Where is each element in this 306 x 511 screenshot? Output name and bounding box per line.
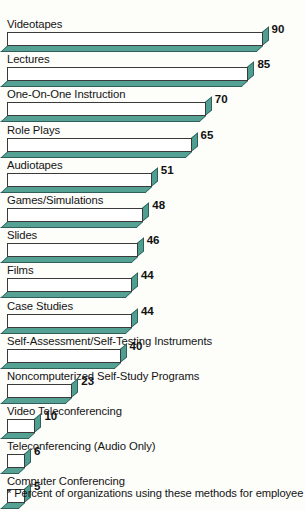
bar-category-label: Self-Assessment/Self-Testing Instruments (7, 335, 212, 348)
bar-top-face (7, 138, 192, 152)
bar-value-label: 48 (152, 199, 165, 211)
bar-end-cap (262, 26, 269, 46)
bar-3d (7, 384, 79, 405)
bar-row: Audiotapes51 (0, 159, 306, 194)
bar-3d (7, 314, 139, 335)
bar-category-label: Video Teleconferencing (7, 405, 122, 418)
bar-3d (7, 243, 145, 264)
bar-3d (7, 67, 255, 88)
bar-value-label: 46 (147, 234, 160, 246)
bar-value-label: 65 (201, 129, 214, 141)
bar-end-cap (131, 272, 138, 292)
bar-3d (7, 349, 128, 370)
bar-bottom-face (0, 503, 25, 509)
bar-value-label: 44 (141, 269, 154, 281)
bar-category-label: Noncomputerized Self-Study Programs (7, 370, 199, 383)
bar-top-face (7, 102, 206, 116)
bar-row: One-On-One Instruction70 (0, 88, 306, 123)
bar-3d (7, 173, 159, 194)
bar-3d (7, 419, 42, 440)
bar-row: Video Teleconferencing10 (0, 405, 306, 440)
bar-top-face (7, 208, 143, 222)
bar-bottom-face (0, 398, 72, 404)
bar-row: Teleconferencing (Audio Only)6 (0, 440, 306, 475)
chart-footnote: * Percent of organizations using these m… (7, 486, 303, 500)
bar-category-label: One-On-One Instruction (7, 88, 125, 101)
bar-value-label: 51 (161, 164, 174, 176)
bar-bottom-face (0, 292, 132, 298)
bar-bottom-face (0, 46, 262, 52)
bar-category-label: Audiotapes (7, 159, 63, 172)
bar-bottom-face (0, 433, 35, 439)
bar-top-face (7, 173, 152, 187)
bar-top-face (7, 243, 138, 257)
bar-3d (7, 32, 270, 53)
bar-category-label: Games/Simulations (7, 194, 103, 207)
bar-value-label: 10 (44, 410, 57, 422)
bar-end-cap (205, 97, 212, 117)
bar-bottom-face (0, 116, 205, 122)
bar-bottom-face (0, 363, 120, 369)
bar-category-label: Films (7, 264, 33, 277)
bar-top-face (7, 67, 248, 81)
bar-end-cap (151, 167, 158, 187)
bar-bottom-face (0, 152, 191, 158)
bar-value-label: 6 (34, 445, 40, 457)
bar-3d (7, 138, 199, 159)
bar-value-label: 44 (141, 305, 154, 317)
bar-category-label: Case Studies (7, 300, 73, 313)
bar-top-face (7, 314, 132, 328)
bar-end-cap (34, 413, 41, 433)
bar-bottom-face (0, 328, 132, 334)
bar-value-label: 85 (257, 58, 270, 70)
bar-bottom-face (0, 468, 25, 474)
bar-category-label: Videotapes (7, 18, 62, 31)
bar-row: Films44 (0, 264, 306, 299)
bar-row: Videotapes90 (0, 18, 306, 53)
bar-category-label: Lectures (7, 53, 50, 66)
bar-3d (7, 208, 150, 229)
bar-end-cap (137, 237, 144, 257)
bar-row: Self-Assessment/Self-Testing Instruments… (0, 335, 306, 370)
bar-value-label: 23 (81, 375, 94, 387)
bar-category-label: Slides (7, 229, 37, 242)
bar-3d (7, 102, 213, 123)
bar-top-face (7, 454, 25, 468)
bar-3d (7, 454, 32, 475)
bar-end-cap (191, 132, 198, 152)
bar-end-cap (131, 308, 138, 328)
bar-row: Role Plays65 (0, 124, 306, 159)
bar-category-label: Role Plays (7, 124, 60, 137)
bar-bottom-face (0, 257, 137, 263)
bar-value-label: 40 (130, 340, 143, 352)
bar-row: Lectures85 (0, 53, 306, 88)
bar-top-face (7, 349, 121, 363)
bar-row: Slides46 (0, 229, 306, 264)
bar-value-label: 70 (215, 93, 228, 105)
bar-end-cap (142, 202, 149, 222)
bar-top-face (7, 384, 72, 398)
bar-3d (7, 278, 139, 299)
bar-bottom-face (0, 81, 248, 87)
bar-bottom-face (0, 187, 151, 193)
bar-end-cap (24, 448, 31, 468)
bar-end-cap (247, 61, 254, 81)
bar-top-face (7, 419, 35, 433)
bar-row: Case Studies44 (0, 300, 306, 335)
bar-value-label: 90 (272, 23, 285, 35)
bar-top-face (7, 278, 132, 292)
bar-bottom-face (0, 222, 143, 228)
bar-rows-container: Videotapes90Lectures85One-On-One Instruc… (0, 18, 306, 511)
bar-top-face (7, 32, 263, 46)
bar-row: Noncomputerized Self-Study Programs23 (0, 370, 306, 405)
bar-row: Games/Simulations48 (0, 194, 306, 229)
